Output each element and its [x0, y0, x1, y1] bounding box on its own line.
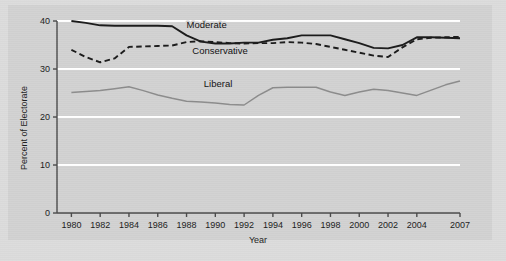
x-tick-labels-group: 1980198219841986198819901992199419961998… — [61, 220, 470, 230]
x-tick-label: 1990 — [205, 220, 225, 230]
y-tick-labels-group: 010203040 — [40, 16, 50, 218]
x-tick-label: 1982 — [90, 220, 110, 230]
x-tick-label: 1980 — [61, 220, 81, 230]
x-tick-label: 1992 — [234, 220, 254, 230]
x-tick-label: 1988 — [177, 220, 197, 230]
x-tick-label: 2002 — [378, 220, 398, 230]
x-tick-label: 2007 — [450, 220, 470, 230]
data-series-group — [71, 21, 460, 105]
y-tick-label: 10 — [40, 160, 50, 170]
series-label-conservative: Conservative — [192, 45, 247, 56]
y-tick-label: 30 — [40, 64, 50, 74]
series-line-liberal — [71, 81, 460, 105]
x-tick-label: 1994 — [263, 220, 283, 230]
x-tick-label: 1984 — [119, 220, 139, 230]
series-line-moderate — [71, 21, 460, 48]
x-axis-title: Year — [249, 235, 267, 245]
x-tick-label: 1998 — [320, 220, 340, 230]
series-label-moderate: Moderate — [187, 19, 227, 30]
y-tick-label: 0 — [45, 208, 50, 218]
y-axis-title: Percent of Electorate — [19, 86, 29, 170]
series-inline-labels-group: ModerateModerateConservativeConservative… — [187, 19, 248, 90]
series-label-liberal: Liberal — [204, 78, 233, 89]
x-tick-label: 2004 — [407, 220, 427, 230]
chart-figure: 1980198219841986198819901992199419961998… — [0, 0, 506, 261]
x-tick-label: 2000 — [349, 220, 369, 230]
x-tick-label: 1986 — [148, 220, 168, 230]
x-tick-label: 1996 — [292, 220, 312, 230]
y-tick-label: 40 — [40, 16, 50, 26]
line-chart: 1980198219841986198819901992199419961998… — [0, 0, 506, 261]
y-tick-label: 20 — [40, 112, 50, 122]
